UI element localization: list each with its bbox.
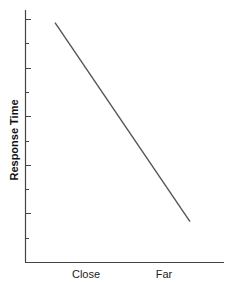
y-axis-label: Response Time (8, 99, 20, 180)
x-tick-label-close: Close (72, 268, 100, 280)
response-time-line (55, 23, 190, 222)
line-chart: Response Time Close Far (0, 0, 240, 282)
x-tick-label-far: Far (156, 268, 173, 280)
chart-svg: Response Time Close Far (0, 0, 240, 282)
